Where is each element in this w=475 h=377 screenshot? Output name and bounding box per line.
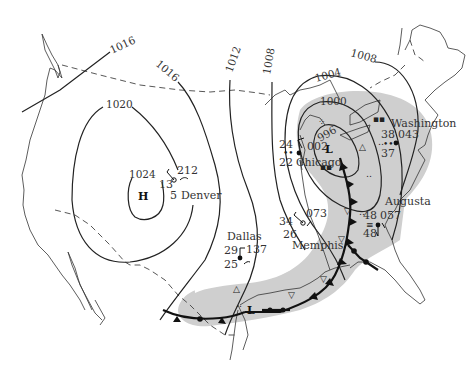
isobar-label-1008: 1008 (260, 47, 276, 75)
svg-text:▽: ▽ (288, 290, 295, 300)
washington-dewpoint: 37 (381, 147, 395, 160)
high-pressure-center: H (138, 190, 148, 203)
svg-text:‥: ‥ (236, 299, 242, 309)
svg-text:△: △ (359, 142, 366, 152)
svg-text:▽: ▽ (344, 206, 351, 216)
mexico-coast (95, 300, 105, 325)
svg-text:⁘: ⁘ (318, 117, 326, 127)
washington-label: Washington (391, 117, 456, 130)
dallas-label: Dallas (227, 230, 262, 243)
denver-label: Denver (181, 189, 222, 202)
svg-text:‥: ‥ (366, 169, 372, 179)
isobar-label-1000: 1000 (320, 95, 347, 107)
chicago-temp: 24 (279, 138, 293, 151)
isobar-label-1020: 1020 (106, 98, 133, 110)
memphis-temp: 34 (279, 215, 293, 228)
augusta-dewpoint: 48 (363, 227, 377, 240)
isobar-label-1016: 1016 (108, 34, 138, 56)
memphis-pressure: 073 (306, 207, 327, 220)
dallas-pressure: 137 (246, 243, 267, 256)
dallas-dewpoint: 25 (224, 258, 238, 271)
memphis-label: Memphis (292, 239, 344, 252)
chicago-pressure: 002 (307, 140, 328, 153)
isobar-label-1016b: 1016 (154, 57, 182, 84)
augusta-label: Augusta (384, 195, 431, 208)
isobar-label-1012: 1012 (223, 44, 243, 73)
svg-text:▪▪: ▪▪ (373, 114, 385, 124)
isobar-label-1024: 1024 (129, 168, 156, 180)
low-pressure-center-gulf: L (247, 304, 255, 317)
isobar-1016-straight (22, 52, 110, 112)
chicago-dewpoint: 22 (279, 156, 293, 169)
isobar-label-1008b: 1008 (349, 46, 378, 65)
weather-map: 1016 1016 1012 1008 1004 1008 1000 996 1… (0, 0, 475, 377)
augusta-pressure: 057 (380, 209, 401, 222)
isobar-1020 (72, 107, 193, 262)
denver-pressure: 212 (177, 164, 198, 177)
chicago-label: Chicago (296, 156, 342, 169)
denver-dewpoint: 5 (170, 189, 177, 202)
svg-text:▽: ▽ (320, 274, 327, 284)
svg-text:△: △ (233, 284, 240, 294)
augusta-temp: 48 (363, 209, 377, 222)
station-denver[interactable]: 212 13 5 Denver (159, 164, 222, 202)
dallas-temp: 29 (224, 244, 238, 257)
